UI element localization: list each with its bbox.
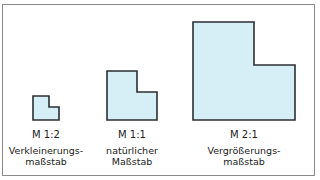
desc-line2-m1-2: maßstab (0, 156, 92, 167)
desc-line2-m2-1: maßstab (194, 156, 294, 167)
desc-line1-m2-1: Vergrößerungs- (194, 145, 294, 156)
shape-m2-1 (193, 22, 295, 120)
scale-label-m1-2: M 1:2 (16, 129, 76, 140)
desc-line2-m1-1: Maßstab (92, 156, 172, 167)
shape-m1-1 (107, 71, 157, 120)
shape-m1-2 (33, 96, 59, 120)
desc-line1-m1-1: natürlicher (92, 145, 172, 156)
scale-label-m2-1: M 2:1 (214, 129, 274, 140)
scale-label-m1-1: M 1:1 (102, 129, 162, 140)
desc-line1-m1-2: Verkleinerungs- (0, 145, 92, 156)
